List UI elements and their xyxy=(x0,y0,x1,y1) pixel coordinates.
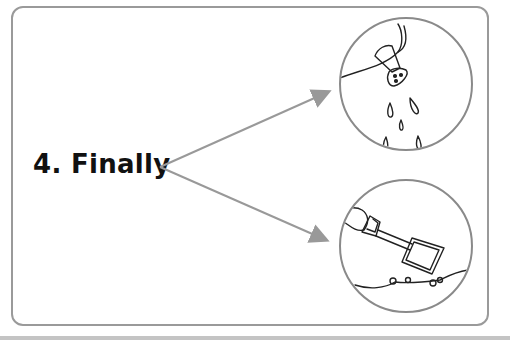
shovel-illustration xyxy=(340,180,472,312)
watering-spout-illustration xyxy=(340,18,472,150)
arrow-down xyxy=(160,167,326,240)
arrow-up xyxy=(160,92,328,167)
bottom-bar xyxy=(0,336,510,340)
diagram-canvas xyxy=(0,0,510,340)
